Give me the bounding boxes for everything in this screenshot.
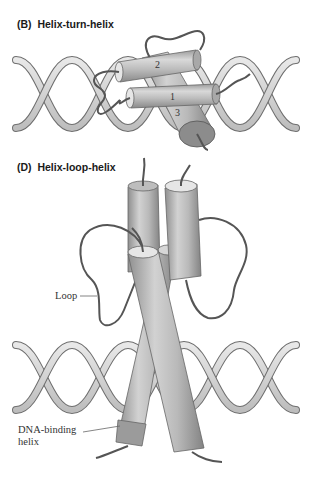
- panel-b-name: Helix-turn-helix: [37, 18, 113, 30]
- panel-b-title: (B) Helix-turn-helix: [17, 18, 114, 30]
- helix-2-number: 2: [155, 59, 160, 70]
- panel-d-letter: (D): [17, 161, 32, 173]
- helix-3-number: 3: [175, 107, 180, 118]
- dna-binding-label-line2: helix: [18, 436, 76, 448]
- dna-binding-helix-label: DNA-binding helix: [18, 424, 76, 448]
- diagram-canvas: 2 1 3: [0, 0, 318, 478]
- helix-1-number: 1: [170, 91, 175, 102]
- panel-d-name: Helix-loop-helix: [37, 161, 115, 173]
- dna-binding-label-line1: DNA-binding: [18, 424, 76, 436]
- dna-binding-leader-line: [83, 426, 120, 432]
- loop-label: Loop: [55, 290, 77, 302]
- helix-front-right-cylinder: [165, 165, 201, 280]
- panel-b-letter: (B): [17, 18, 32, 30]
- panel-d-title: (D) Helix-loop-helix: [17, 161, 116, 173]
